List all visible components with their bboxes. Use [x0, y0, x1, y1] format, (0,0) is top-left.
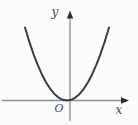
plot-canvas: y x O: [0, 0, 138, 125]
parabola-figure: y x O: [0, 0, 138, 125]
x-axis-label: x: [116, 103, 123, 117]
y-axis-label: y: [51, 5, 59, 19]
origin-label: O: [54, 102, 63, 115]
